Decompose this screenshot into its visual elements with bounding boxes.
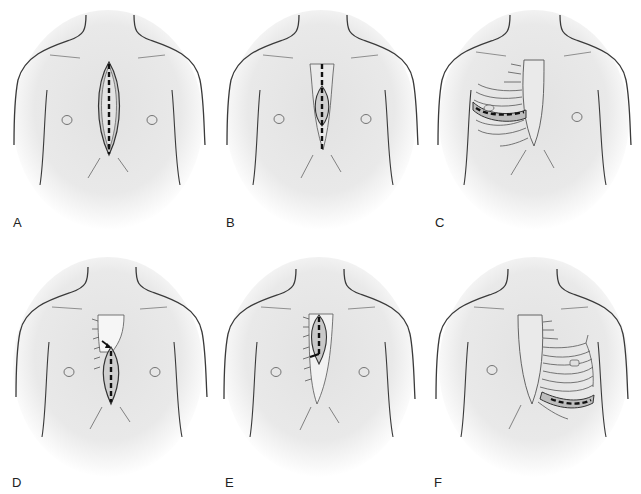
torso-illustration <box>213 0 426 247</box>
torso-illustration <box>0 247 213 494</box>
panel-label: D <box>12 475 21 490</box>
torso-illustration <box>426 247 641 494</box>
panel-label: E <box>225 475 234 490</box>
panel-d: D <box>0 247 213 494</box>
torso-illustration <box>213 247 426 494</box>
panel-label: B <box>226 215 235 230</box>
panel-label: A <box>13 215 22 230</box>
torso-illustration <box>0 0 213 247</box>
panel-c: C <box>426 0 639 247</box>
panel-e: E <box>213 247 426 494</box>
panel-label: F <box>434 475 442 490</box>
panel-a: A <box>0 0 213 247</box>
torso-illustration <box>426 0 641 247</box>
panel-b: B <box>213 0 426 247</box>
panel-f: F <box>426 247 639 494</box>
panel-label: C <box>435 215 444 230</box>
